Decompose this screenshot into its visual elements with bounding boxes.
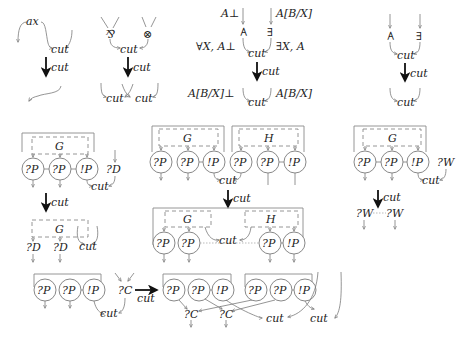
node-bang-p: !P xyxy=(287,237,299,250)
node-why-p: ?P xyxy=(52,163,66,176)
weakening-top-cut: cut xyxy=(422,174,440,187)
node-why-p: ?P xyxy=(273,284,287,297)
node-why-p: ?P xyxy=(262,237,276,250)
axiom-rule: ax cut cut xyxy=(18,15,72,101)
node-why-w: ?W xyxy=(437,156,456,169)
node-bang-p: !P xyxy=(288,156,300,169)
node-why-p: ?P xyxy=(156,237,170,250)
par-tensor-bottom-cut-left: cut xyxy=(106,92,124,105)
box-h-label: H xyxy=(263,132,274,145)
node-why-c: ?C xyxy=(118,284,133,297)
contraction-result-cut-right: cut xyxy=(310,312,328,325)
forall-icon: ∀ xyxy=(240,25,247,38)
node-why-d: ?D xyxy=(106,163,121,176)
node-why-d: ?D xyxy=(26,241,41,254)
par-tensor-bottom-cut-right: cut xyxy=(135,92,153,105)
dereliction-result-cut: cut xyxy=(79,240,97,253)
node-why-p: ?P xyxy=(25,163,39,176)
box-g-label: G xyxy=(183,132,192,145)
node-why-w: ?W xyxy=(356,207,375,220)
quantifier-plain-rule: ∀ ∃ cut cut cut xyxy=(387,14,428,109)
out-right-formula: ∃X, A xyxy=(276,40,305,53)
quantifier-top-cut: cut xyxy=(248,47,266,60)
bottom-right-formula: A[B/X] xyxy=(275,87,313,100)
contraction-arrow-label: cut xyxy=(137,292,155,305)
quantifier-plain-bottom-cut: cut xyxy=(397,96,415,109)
node-bang-p: !P xyxy=(298,284,310,297)
node-bang-p: !P xyxy=(216,284,228,297)
box-g-label: G xyxy=(388,132,397,145)
quantifier-arrow-label: cut xyxy=(262,65,280,78)
axiom-top-cut: cut xyxy=(51,43,69,56)
quantifier-labeled-rule: A⊥ A[B/X] ∀ ∃ ∀X, A⊥ ∃X, A cut cut A[B/X… xyxy=(187,7,313,109)
box-box-result-cut: cut xyxy=(219,234,237,247)
node-bang-p: !P xyxy=(207,156,219,169)
node-why-p: ?P xyxy=(180,156,194,169)
node-why-p: ?P xyxy=(233,156,247,169)
box-box-rule: G ?P ?P !P H ?P ?P !P cut cut G xyxy=(150,126,306,262)
box-g-label: G xyxy=(55,140,64,153)
node-why-p: ?P xyxy=(166,284,180,297)
result-box-g-label: G xyxy=(183,213,192,226)
node-bang-p: !P xyxy=(411,156,423,169)
axiom-arrow-label: cut xyxy=(51,61,69,74)
in-left-formula: A⊥ xyxy=(220,7,239,20)
node-why-p: ?P xyxy=(62,284,76,297)
node-why-p: ?P xyxy=(248,284,262,297)
node-why-c: ?C xyxy=(219,308,234,321)
node-why-p: ?P xyxy=(181,237,195,250)
contraction-rule: ?P ?P !P ?C cut cut ?P ?P !P ?P ?P !P ?C… xyxy=(34,272,341,327)
quantifier-bottom-cut: cut xyxy=(248,96,266,109)
node-why-p: ?P xyxy=(384,156,398,169)
result-box-h-label: H xyxy=(265,213,276,226)
exists-icon: ∃ xyxy=(416,30,422,43)
dereliction-top-cut: cut xyxy=(91,180,109,193)
out-left-formula: ∀X, A⊥ xyxy=(196,40,236,53)
box-box-top-cut: cut xyxy=(219,174,237,187)
node-why-c: ?C xyxy=(184,308,199,321)
forall-icon: ∀ xyxy=(387,29,394,42)
quantifier-plain-arrow-label: cut xyxy=(410,67,428,80)
result-box-g-label: G xyxy=(55,223,64,236)
node-bang-p: !P xyxy=(80,163,92,176)
dereliction-arrow-label: cut xyxy=(51,196,69,209)
node-bang-p: !P xyxy=(87,284,99,297)
bottom-left-formula: A[B/X]⊥ xyxy=(187,87,235,100)
node-why-w: ?W xyxy=(386,207,405,220)
cut-elimination-diagram: ax cut cut ⅋ ⊗ cut cut cut cut A⊥ A[B/X]… xyxy=(0,0,470,340)
node-why-p: ?P xyxy=(37,284,51,297)
contraction-result-cut-left: cut xyxy=(266,312,284,325)
weakening-rule: G ?P ?P !P ?W cut cut ?W ?W xyxy=(354,126,456,229)
in-right-formula: A[B/X] xyxy=(275,7,313,20)
node-why-p: ?P xyxy=(357,156,371,169)
quantifier-plain-top-cut: cut xyxy=(397,49,415,62)
par-tensor-top-cut: cut xyxy=(120,43,138,56)
node-why-p: ?P xyxy=(191,284,205,297)
ax-label: ax xyxy=(26,15,40,28)
par-tensor-arrow-label: cut xyxy=(133,61,151,74)
node-why-p: ?P xyxy=(260,156,274,169)
exists-icon: ∃ xyxy=(267,26,273,39)
dereliction-rule: G ?P ?P !P ?D cut cut G ?D ?D cut xyxy=(22,133,121,262)
weakening-arrow-label: cut xyxy=(383,191,401,204)
node-why-p: ?P xyxy=(153,156,167,169)
box-box-arrow-label: cut xyxy=(233,192,251,205)
par-tensor-rule: ⅋ ⊗ cut cut cut cut xyxy=(101,17,158,105)
node-why-d: ?D xyxy=(53,241,68,254)
contraction-top-cut: cut xyxy=(100,307,118,320)
